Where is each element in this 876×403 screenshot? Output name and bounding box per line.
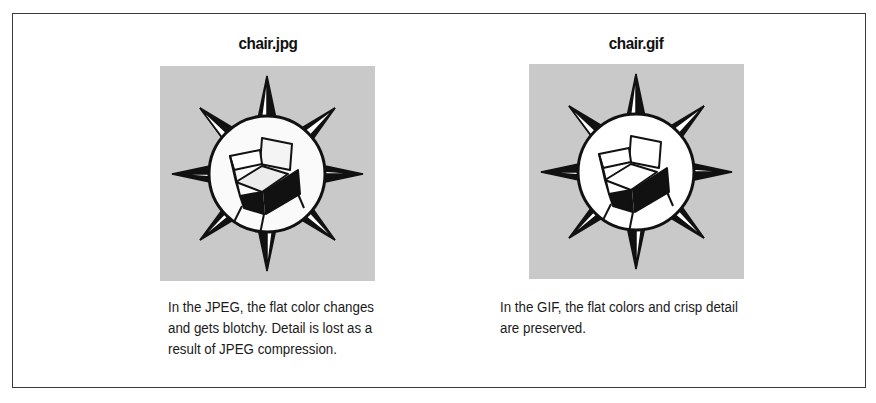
description-line: In the GIF, the flat colors and crisp de… (500, 296, 738, 317)
chair-gif-image (529, 64, 744, 279)
panel-title-gif: chair.gif (539, 34, 733, 54)
description-line: and gets blotchy. Detail is lost as a (168, 317, 374, 338)
panel-description-jpeg: In the JPEG, the flat color changes and … (168, 296, 374, 359)
chair-jpg-image (160, 66, 375, 281)
compass-star-chair-icon (160, 66, 375, 281)
compass-star-chair-icon (529, 64, 744, 279)
description-line: In the JPEG, the flat color changes (168, 296, 374, 317)
panel-title-jpeg: chair.jpg (171, 34, 365, 54)
description-line: result of JPEG compression. (168, 338, 374, 359)
description-line: are preserved. (500, 317, 738, 338)
panel-description-gif: In the GIF, the flat colors and crisp de… (500, 296, 738, 338)
